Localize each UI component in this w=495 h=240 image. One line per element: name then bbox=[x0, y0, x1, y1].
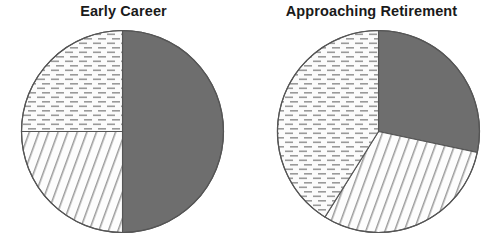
chart-panel-approaching-retirement: Approaching Retirement bbox=[248, 0, 495, 240]
pie-chart-figure: Early Career bbox=[0, 0, 495, 240]
pie-svg-left bbox=[0, 0, 247, 240]
pie-slice-left-cash bbox=[22, 132, 123, 233]
pie-chart-left bbox=[0, 0, 247, 240]
pie-chart-right bbox=[248, 0, 495, 240]
pie-slice-left-bonds bbox=[22, 31, 123, 132]
pie-svg-right bbox=[248, 0, 495, 240]
chart-panel-early-career: Early Career bbox=[0, 0, 247, 240]
pie-slice-left-stocks bbox=[123, 31, 224, 233]
